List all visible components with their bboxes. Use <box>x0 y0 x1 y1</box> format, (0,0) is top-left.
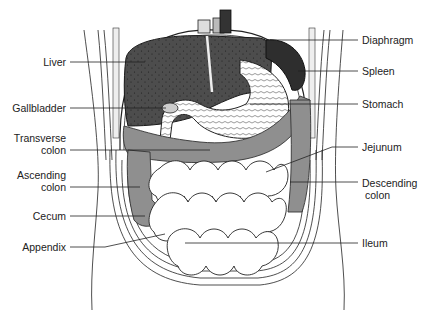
label-diaphragm: Diaphragm <box>362 34 413 46</box>
label-jejunum: Jejunum <box>362 141 402 153</box>
label-cecum: Cecum <box>33 210 66 222</box>
label-gallbladder: Gallbladder <box>12 102 66 114</box>
abdominal-anatomy-diagram <box>0 0 428 322</box>
rib-strip-left <box>113 28 119 138</box>
label-ileum: Ileum <box>362 237 388 249</box>
label-spleen: Spleen <box>362 65 395 77</box>
label-stomach: Stomach <box>362 98 403 110</box>
small-intestine <box>149 161 288 275</box>
label-ascending-colon: Ascending colon <box>17 169 66 193</box>
label-appendix: Appendix <box>22 241 66 253</box>
label-transverse-colon: Transverse colon <box>14 132 66 156</box>
label-liver: Liver <box>43 56 66 68</box>
great-vessels <box>198 10 231 33</box>
label-descending-colon: Descending colon <box>362 177 417 201</box>
